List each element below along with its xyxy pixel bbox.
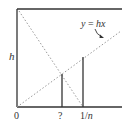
diagram-canvas: h 0 ? 1/n y = hx: [0, 0, 127, 124]
rising-dotted-line: [17, 31, 121, 107]
falling-dotted-line: [19, 11, 83, 107]
label-line-equation: y = hx: [80, 18, 106, 29]
label-unknown: ?: [58, 110, 63, 121]
arrowhead-icon: [100, 35, 105, 39]
label-origin: 0: [14, 110, 19, 121]
label-one-over-n: 1/n: [80, 110, 93, 121]
label-h: h: [9, 50, 15, 62]
label-n: n: [88, 110, 93, 121]
eq-hx: hx: [96, 18, 106, 29]
eq-equals: =: [85, 18, 96, 29]
